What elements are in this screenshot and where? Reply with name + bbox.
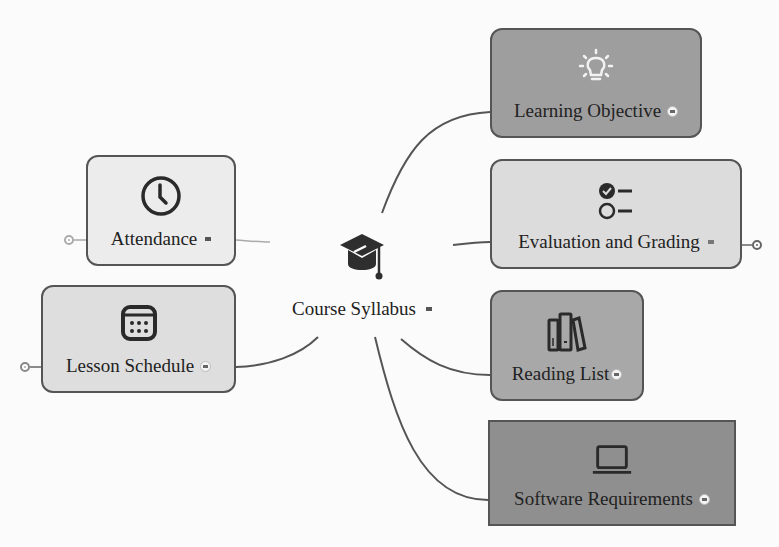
books-icon <box>545 311 589 355</box>
connector-learning-objective <box>382 112 490 213</box>
connector-reading-list <box>401 339 490 375</box>
branch-label: Lesson Schedule <box>66 355 194 377</box>
checklist-icon <box>594 179 638 223</box>
notes-indicator[interactable] <box>200 361 211 372</box>
branch-learning-objective[interactable]: Learning Objective <box>490 28 702 138</box>
branch-attendance[interactable]: Attendance <box>86 155 236 266</box>
collapse-toggle-evaluation-and-grading[interactable] <box>752 240 762 250</box>
collapse-toggle-attendance[interactable] <box>64 235 74 245</box>
notes-indicator[interactable] <box>426 307 432 311</box>
branch-evaluation-and-grading[interactable]: Evaluation and Grading <box>490 159 742 269</box>
notes-indicator[interactable] <box>699 494 710 505</box>
branch-label: Reading List <box>512 363 610 385</box>
connector-attendance <box>236 240 270 242</box>
laptop-icon <box>590 438 634 482</box>
branch-label: Software Requirements <box>514 488 693 510</box>
notes-indicator[interactable] <box>667 106 678 117</box>
calendar-icon <box>117 301 161 345</box>
clock-icon <box>139 174 183 218</box>
branch-lesson-schedule[interactable]: Lesson Schedule <box>41 285 236 393</box>
connector-lesson-schedule <box>236 337 318 367</box>
notes-indicator[interactable] <box>611 369 622 380</box>
collapse-toggle-lesson-schedule[interactable] <box>20 362 30 372</box>
lightbulb-icon <box>574 46 618 90</box>
branch-label: Learning Objective <box>514 100 661 122</box>
branch-software-requirements[interactable]: Software Requirements <box>488 420 736 526</box>
notes-indicator[interactable] <box>708 240 714 244</box>
branch-label: Evaluation and Grading <box>518 231 700 253</box>
branch-reading-list[interactable]: Reading List <box>490 290 644 401</box>
graduation-cap-icon <box>339 232 385 286</box>
central-topic[interactable]: Course Syllabus <box>282 232 442 332</box>
notes-indicator[interactable] <box>205 237 211 241</box>
branch-label: Attendance <box>111 228 198 250</box>
central-topic-label: Course Syllabus <box>292 298 416 320</box>
connector-evaluation-and-grading <box>453 242 490 245</box>
